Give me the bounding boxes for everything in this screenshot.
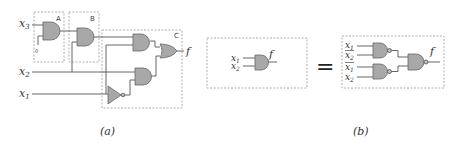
box-b-label: B — [90, 15, 95, 23]
nand-gate-output — [408, 54, 424, 70]
nand-gate-top — [373, 43, 388, 58]
wire-x1-to-and1 — [106, 45, 133, 94]
nand-gate-bottom-bubble — [388, 70, 392, 74]
input-x2-bar-top: x2 — [345, 50, 354, 61]
panel-b-nand-network: x1 x2 x1 x2 f — [342, 36, 444, 88]
caption-b: (b) — [353, 125, 369, 138]
output-f-label: f — [185, 45, 192, 58]
wire-x2-to-b — [72, 42, 77, 72]
equals-sign: = — [316, 54, 334, 79]
wire-not-to-and2 — [124, 80, 135, 95]
output-f-label-b-right: f — [429, 45, 436, 58]
or-gate-c — [160, 44, 177, 58]
nand-inputs-wires — [357, 46, 373, 77]
nand-gate-bottom — [373, 64, 388, 79]
and-gate-c-bottom — [135, 68, 152, 85]
nand-internal-wires — [392, 51, 409, 72]
box-a-label: A — [56, 15, 61, 23]
panel-a: A B C x3 x2 x1 0 f (a) — [19, 12, 192, 138]
constant-zero-label: 0 — [35, 48, 38, 54]
and-gate-b — [77, 28, 94, 46]
and-gate — [255, 55, 269, 70]
wire-and1-to-or — [150, 41, 160, 47]
input-x1-bar-bottom: x1 — [345, 62, 354, 73]
nand-gate-top-bubble — [388, 49, 392, 53]
nand-gate-output-bubble — [424, 60, 428, 64]
input-x1-label: x1 — [19, 87, 30, 101]
logic-circuit-figure: A B C x3 x2 x1 0 f (a) x — [0, 0, 455, 150]
and-gate-c-top — [133, 34, 150, 51]
input-x2-bottom: x2 — [345, 72, 354, 83]
not-gate-c — [108, 86, 121, 104]
wire-zero — [38, 36, 43, 45]
wire-and2-to-or — [151, 56, 160, 76]
and-gate-a — [43, 22, 60, 40]
not-gate-bubble — [121, 93, 125, 97]
input-x1-top: x1 — [345, 40, 354, 51]
panel-b-and-gate: x1 x2 f — [207, 38, 307, 88]
and-inputs-wires — [243, 58, 255, 66]
output-f-label-b-left: f — [268, 48, 275, 61]
input-x2-label: x2 — [19, 65, 30, 79]
box-c-label: C — [174, 32, 179, 40]
caption-a: (a) — [100, 125, 115, 138]
input-x3-label: x3 — [19, 17, 30, 31]
